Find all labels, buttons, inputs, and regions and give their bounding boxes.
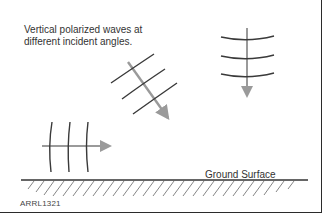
wavefront-1 [111, 54, 154, 83]
diagram-artwork [0, 0, 335, 222]
ground-surface [21, 180, 308, 196]
wavefront-3 [133, 83, 177, 114]
wave-vertical-down [221, 28, 274, 96]
wave-horizontal [42, 122, 110, 172]
figure-id: ARRL1321 [20, 199, 61, 208]
ground-surface-label: Ground Surface [205, 169, 276, 180]
ground-hatching [28, 181, 294, 196]
wavefront-2 [122, 69, 165, 99]
wave-oblique [111, 54, 177, 118]
